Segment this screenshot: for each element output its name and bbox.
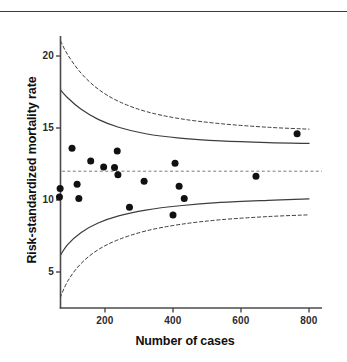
control-limit-curve	[58, 36, 309, 129]
x-axis-tick-label: 800	[289, 315, 329, 326]
control-limits-group	[58, 36, 309, 303]
data-point	[114, 148, 121, 155]
data-point	[74, 181, 81, 188]
data-point	[176, 183, 183, 190]
data-point	[87, 158, 94, 165]
data-point	[141, 178, 148, 185]
x-axis-tick-label: 200	[85, 315, 125, 326]
control-limit-curve	[58, 87, 309, 143]
data-point	[181, 195, 188, 202]
y-axis-title: Risk-standardized mortality rate	[25, 65, 39, 275]
y-axis-tick-label: 20	[22, 50, 54, 61]
data-point	[114, 171, 121, 178]
axes-group	[56, 36, 322, 313]
control-limit-curve	[58, 215, 309, 303]
funnel-plot-figure: 20 15 10 5 200 400 600 800 Risk-standard…	[0, 0, 347, 362]
data-point	[172, 160, 179, 167]
x-axis-tick-label: 600	[221, 315, 261, 326]
data-point	[57, 185, 64, 192]
data-point	[75, 195, 82, 202]
data-point	[100, 163, 107, 170]
data-point	[69, 145, 76, 152]
data-point	[294, 130, 301, 137]
data-point	[252, 173, 259, 180]
data-point	[126, 204, 133, 211]
control-limit-curve	[58, 199, 309, 259]
data-point	[56, 194, 63, 201]
x-axis-title: Number of cases	[60, 334, 310, 348]
data-point	[111, 164, 118, 171]
x-axis-tick-label: 400	[153, 315, 193, 326]
data-point	[170, 212, 177, 219]
